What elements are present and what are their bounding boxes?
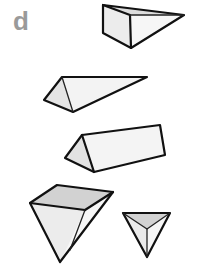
wedge-top-shape [103,5,184,48]
geometric-solids-figure [0,0,197,270]
large-pyramid-shape [30,185,113,262]
thin-wedge-shape [44,77,147,112]
triangular-prism-shape [65,125,165,172]
small-tetrahedron-shape [123,213,170,257]
